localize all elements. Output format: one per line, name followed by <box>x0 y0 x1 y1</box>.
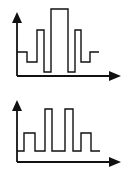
waveform-diagram-bottom <box>0 90 126 181</box>
waveform-line <box>17 9 99 72</box>
x-axis-arrow-icon <box>17 157 121 167</box>
waveform-top-svg <box>0 0 126 90</box>
y-axis-arrow-icon <box>12 12 22 76</box>
y-axis-arrow-icon <box>12 100 22 162</box>
waveform-bottom-svg <box>0 90 126 181</box>
waveform-diagram-top <box>0 0 126 90</box>
waveform-line <box>17 109 100 151</box>
